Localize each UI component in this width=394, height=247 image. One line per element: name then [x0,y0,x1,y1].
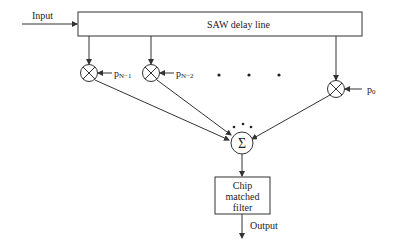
summer-ellipsis [233,123,253,129]
input-label: Input [32,10,53,21]
filter-label-line3: filter [233,202,253,213]
coefficient-label-pn-1: pN−1 [114,68,132,80]
output-label: Output [250,220,278,231]
summing-lines [95,80,330,140]
ellipsis-dots [217,73,280,76]
multiplier-icon [328,81,345,98]
multiplier-icon [81,65,98,82]
svg-text:Σ: Σ [238,136,246,151]
summer-icon: Σ [231,132,253,154]
filter-label-line1: Chip [233,180,252,191]
saw-delay-line-label: SAW delay line [207,19,270,30]
multiplier-icon [143,65,160,82]
coefficient-label-pn-2: pN−2 [176,68,194,80]
saw-correlator-diagram: Input SAW delay line pN−1 pN−2 p0 [0,0,394,247]
filter-label-line2: matched [226,191,260,202]
coefficient-label-p0: p0 [367,84,376,96]
